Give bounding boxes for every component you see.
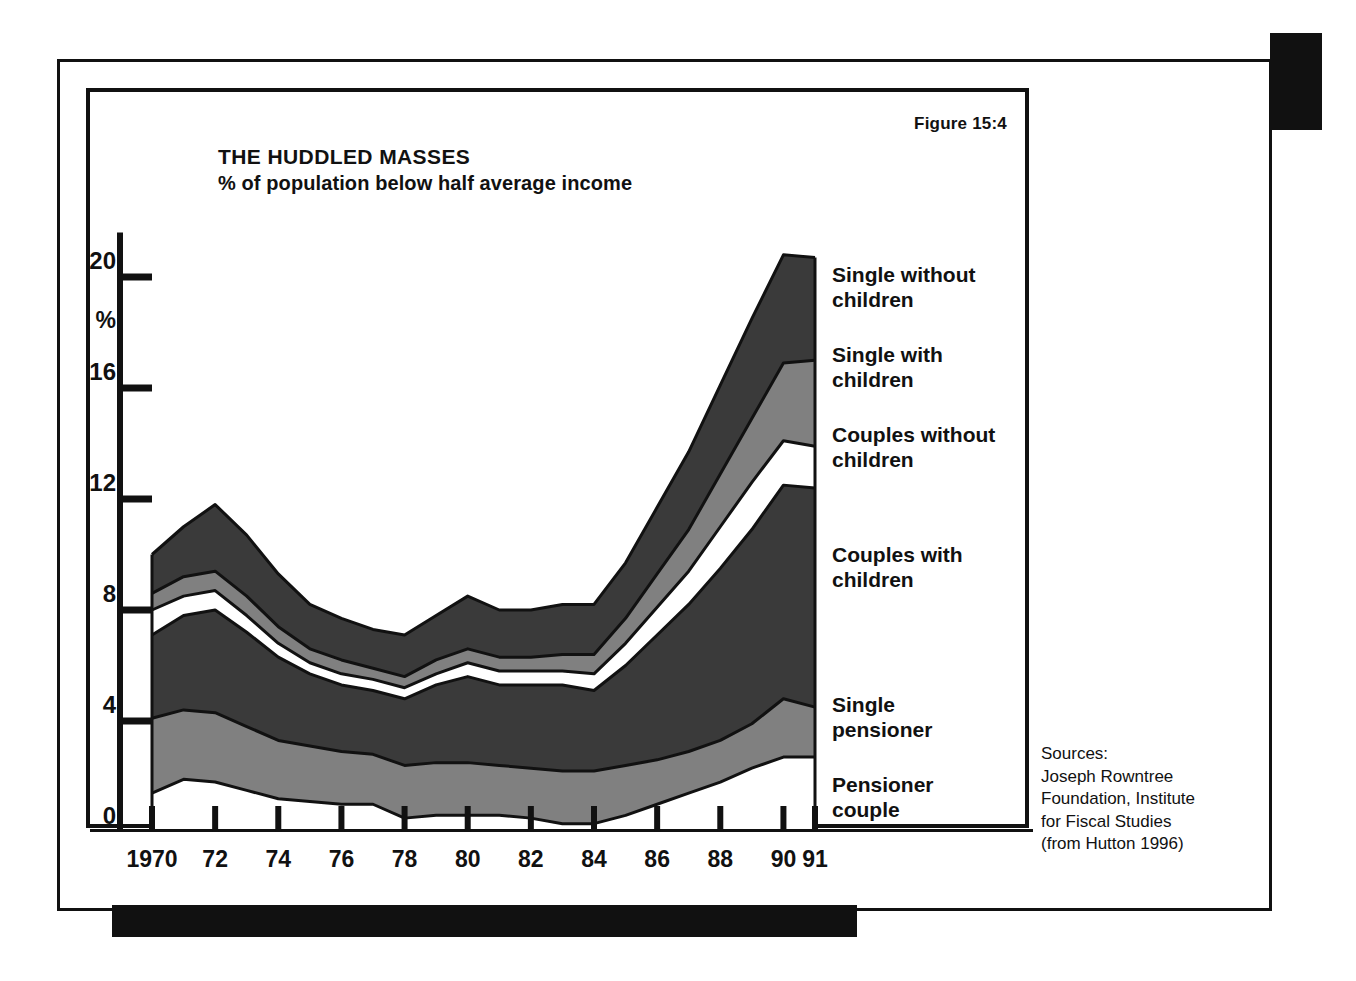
legend-item: Single with children — [832, 342, 943, 392]
x-axis-label: 82 — [518, 846, 544, 873]
x-axis-label: 84 — [581, 846, 607, 873]
x-axis-label: 76 — [329, 846, 355, 873]
x-axis-label: 1970 — [126, 846, 177, 873]
decorative-black-bar-right — [1270, 33, 1322, 130]
area-bands — [152, 255, 815, 832]
chart-frame: Figure 15:4 THE HUDDLED MASSES % of popu… — [86, 88, 1029, 828]
y-axis-unit-label: % — [76, 307, 116, 334]
decorative-black-bar-bottom — [112, 905, 857, 937]
y-axis-label: 8 — [76, 580, 116, 608]
y-axis-label: 0 — [76, 802, 116, 830]
x-axis-label: 90 — [771, 846, 797, 873]
legend-item: Couples without children — [832, 422, 995, 472]
y-axis-label: 16 — [76, 358, 116, 386]
sources-note: Sources: Joseph Rowntree Foundation, Ins… — [1041, 743, 1195, 856]
y-axis-label: 20 — [76, 247, 116, 275]
legend-item: Single without children — [832, 262, 975, 312]
x-axis-label: 91 — [802, 846, 828, 873]
x-axis-label: 86 — [644, 846, 670, 873]
x-axis-label: 80 — [455, 846, 481, 873]
figure-page: Figure 15:4 THE HUDDLED MASSES % of popu… — [0, 0, 1356, 981]
legend-item: Single pensioner — [832, 692, 932, 742]
x-axis-label: 72 — [202, 846, 228, 873]
legend-item: Pensioner couple — [832, 772, 934, 822]
x-axis-label: 74 — [265, 846, 291, 873]
x-axis-label: 88 — [707, 846, 733, 873]
y-axis-label: 12 — [76, 469, 116, 497]
x-axis-label: 78 — [392, 846, 418, 873]
y-axis-label: 4 — [76, 691, 116, 719]
legend-item: Couples with children — [832, 542, 963, 592]
